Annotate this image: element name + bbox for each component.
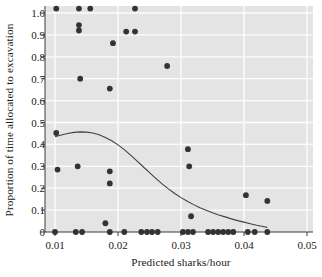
data-point	[76, 22, 82, 28]
data-point	[230, 229, 236, 235]
data-point	[75, 163, 81, 169]
data-point	[243, 192, 249, 198]
data-point	[190, 229, 196, 235]
data-point	[149, 229, 155, 235]
data-point	[76, 6, 82, 12]
plot-background	[45, 6, 313, 232]
data-point	[121, 229, 127, 235]
data-point	[185, 229, 191, 235]
data-point	[144, 229, 150, 235]
data-point	[155, 229, 161, 235]
data-point	[73, 229, 79, 235]
data-point	[77, 76, 83, 82]
data-point	[188, 213, 194, 219]
data-point	[245, 229, 251, 235]
data-point	[110, 40, 116, 46]
data-point	[205, 229, 211, 235]
data-point	[215, 229, 221, 235]
data-point	[53, 130, 59, 136]
data-point	[186, 163, 192, 169]
data-point	[123, 29, 129, 35]
data-point	[87, 6, 93, 12]
data-point	[132, 29, 138, 35]
data-point	[225, 229, 231, 235]
data-point	[107, 86, 113, 92]
scatter-plot-figure: Proportion of time allocated to excavati…	[0, 0, 322, 277]
data-point	[185, 146, 191, 152]
data-point	[252, 229, 258, 235]
data-point	[180, 229, 186, 235]
data-point	[164, 63, 170, 69]
data-point	[264, 229, 270, 235]
data-point	[55, 167, 61, 173]
data-point	[210, 229, 216, 235]
data-point	[79, 229, 85, 235]
x-axis-label: Predicted sharks/hour	[55, 256, 307, 268]
data-point	[107, 168, 113, 174]
data-point	[132, 6, 138, 12]
data-point	[138, 229, 144, 235]
data-point	[220, 229, 226, 235]
data-point	[53, 6, 59, 12]
data-point	[107, 229, 113, 235]
data-point	[264, 198, 270, 204]
data-point	[103, 220, 109, 226]
plot-canvas	[0, 0, 322, 277]
data-point	[76, 28, 82, 34]
data-point	[52, 229, 58, 235]
data-point	[107, 180, 113, 186]
